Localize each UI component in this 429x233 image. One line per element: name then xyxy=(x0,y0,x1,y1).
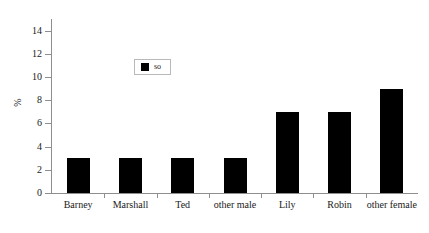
y-axis-tick-label: 2 xyxy=(12,165,42,175)
bar xyxy=(328,112,351,193)
bar xyxy=(67,158,90,193)
y-axis-tick-label: 10 xyxy=(12,72,42,82)
y-axis-tick xyxy=(45,123,51,124)
y-axis-tick xyxy=(45,193,51,194)
bar xyxy=(380,89,403,193)
x-axis-tick xyxy=(261,194,262,198)
legend-swatch-icon xyxy=(141,63,149,71)
y-axis-tick xyxy=(45,170,51,171)
y-axis-tick xyxy=(45,31,51,32)
x-axis-line xyxy=(51,193,418,194)
x-axis-tick xyxy=(157,194,158,198)
y-axis-tick-label: 8 xyxy=(12,95,42,105)
x-axis-label: Marshall xyxy=(104,199,156,211)
x-axis-label: Ted xyxy=(157,199,209,211)
bar xyxy=(224,158,247,193)
x-axis-label: other female xyxy=(366,199,418,211)
bar-series-so xyxy=(52,19,418,193)
y-axis-tick-label: 14 xyxy=(12,26,42,36)
bar xyxy=(276,112,299,193)
x-axis-tick xyxy=(366,194,367,198)
x-axis-label: Barney xyxy=(52,199,104,211)
y-axis-tick-label: 6 xyxy=(12,118,42,128)
y-axis-tick-label: 0 xyxy=(12,188,42,198)
bar-chart: % 02468101214 BarneyMarshallTedother mal… xyxy=(0,0,429,233)
x-axis-tick xyxy=(104,194,105,198)
y-axis-tick xyxy=(45,54,51,55)
x-axis-label: Robin xyxy=(313,199,365,211)
y-axis-tick-label: 12 xyxy=(12,49,42,59)
x-axis-tick xyxy=(313,194,314,198)
x-axis-label: other male xyxy=(209,199,261,211)
y-axis-tick xyxy=(45,100,51,101)
x-axis-label: Lily xyxy=(261,199,313,211)
chart-legend: so xyxy=(134,59,171,75)
legend-label: so xyxy=(154,63,161,71)
y-axis-tick-label: 4 xyxy=(12,142,42,152)
bar xyxy=(119,158,142,193)
x-axis-tick xyxy=(209,194,210,198)
bar xyxy=(171,158,194,193)
y-axis-tick xyxy=(45,147,51,148)
y-axis-tick xyxy=(45,77,51,78)
